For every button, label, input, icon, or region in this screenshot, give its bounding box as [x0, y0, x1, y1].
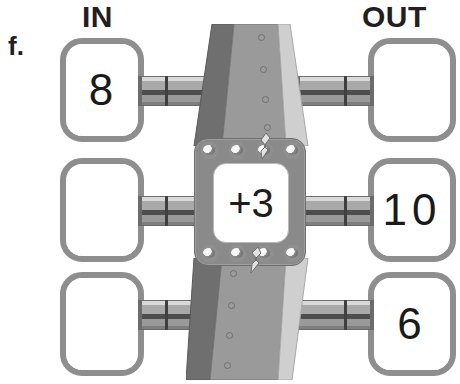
- rivet-icon: [260, 66, 267, 73]
- hex-bolt-icon: [283, 142, 302, 159]
- rivet-icon: [230, 270, 237, 277]
- hex-bolt-icon: [200, 245, 219, 262]
- rivet-icon: [264, 124, 271, 131]
- pipe-seam: [165, 300, 168, 330]
- in-box-inner-0: 8: [66, 44, 138, 136]
- out-box-inner-2: 6: [374, 278, 450, 370]
- pipe-cap-left: [138, 196, 142, 226]
- rule-text: +3: [228, 183, 274, 223]
- column-header-out: OUT: [362, 2, 427, 32]
- rivet-icon: [228, 302, 235, 309]
- pipe-seam: [344, 196, 347, 226]
- hex-bolt-icon: [283, 245, 302, 262]
- in-box-row-1[interactable]: [60, 158, 144, 262]
- in-box-inner-2: [66, 278, 138, 370]
- rivet-icon: [258, 34, 265, 41]
- pipe-cap-right: [370, 300, 374, 330]
- out-value-1: 10: [383, 188, 442, 232]
- out-box-row-2[interactable]: 6: [368, 272, 456, 376]
- hex-bolt-icon: [228, 245, 247, 262]
- pipe-seam: [344, 76, 347, 106]
- pipe-seam: [165, 76, 168, 106]
- function-machine[interactable]: +3: [186, 24, 314, 380]
- rule-display[interactable]: +3: [213, 163, 289, 243]
- in-value-0: 8: [89, 68, 115, 112]
- machine-rule-plate: +3: [194, 138, 306, 266]
- pipe-seam: [165, 196, 168, 226]
- lever-icon-bottom[interactable]: [247, 247, 263, 273]
- in-box-row-0[interactable]: 8: [60, 38, 144, 142]
- lever-icon-top[interactable]: [257, 133, 273, 159]
- hex-bolt-icon: [228, 142, 247, 159]
- machine-housing-bottom: [186, 258, 314, 380]
- out-box-inner-0: [374, 44, 450, 136]
- function-machine-figure: f. IN OUT 8 10 6: [0, 0, 460, 384]
- pipe-cap-left: [138, 76, 142, 106]
- out-box-row-0[interactable]: [368, 38, 456, 142]
- out-box-row-1[interactable]: 10: [368, 158, 456, 262]
- problem-label: f.: [8, 33, 24, 59]
- in-box-row-2[interactable]: [60, 272, 144, 376]
- rivet-icon: [262, 96, 269, 103]
- pipe-cap-right: [370, 196, 374, 226]
- pipe-seam: [344, 300, 347, 330]
- column-header-in: IN: [82, 2, 113, 32]
- hex-bolt-icon: [200, 142, 219, 159]
- rivet-icon: [226, 332, 233, 339]
- out-value-2: 6: [397, 302, 426, 346]
- out-box-inner-1: 10: [374, 164, 450, 256]
- in-box-inner-1: [66, 164, 138, 256]
- pipe-cap-left: [138, 300, 142, 330]
- machine-housing-top: [186, 24, 314, 146]
- pipe-cap-right: [370, 76, 374, 106]
- rivet-icon: [224, 362, 231, 369]
